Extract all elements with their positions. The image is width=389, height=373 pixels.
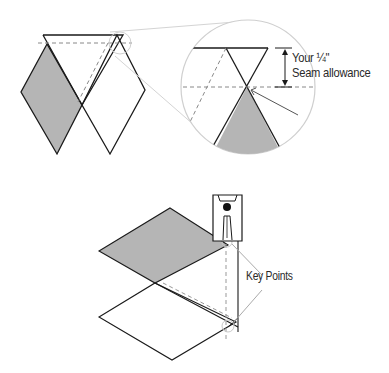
shaded-diamond xyxy=(21,44,82,154)
white-diamond xyxy=(82,35,145,154)
white-rhombus xyxy=(99,283,236,360)
seam-allowance-label-line2: Seam allowance xyxy=(292,66,370,80)
shaded-rhombus xyxy=(99,208,228,283)
top-diamonds xyxy=(21,32,145,154)
seam-allowance-label-line1: Your ¼" xyxy=(292,51,329,65)
magnified-detail xyxy=(176,20,320,155)
presser-foot-icon xyxy=(213,195,242,241)
seam-allowance-diagram xyxy=(0,0,389,373)
key-points-label: Key Points xyxy=(246,269,293,283)
